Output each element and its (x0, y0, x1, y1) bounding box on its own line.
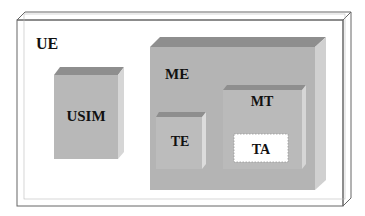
me-label: ME (165, 66, 189, 82)
ue-label: UE (36, 35, 58, 52)
usim-label: USIM (66, 108, 105, 124)
te-label: TE (171, 134, 190, 149)
ta-label: TA (252, 142, 271, 157)
ue-architecture-diagram: UE USIM ME TE MT TA (0, 0, 365, 216)
mt-label: MT (251, 94, 274, 109)
